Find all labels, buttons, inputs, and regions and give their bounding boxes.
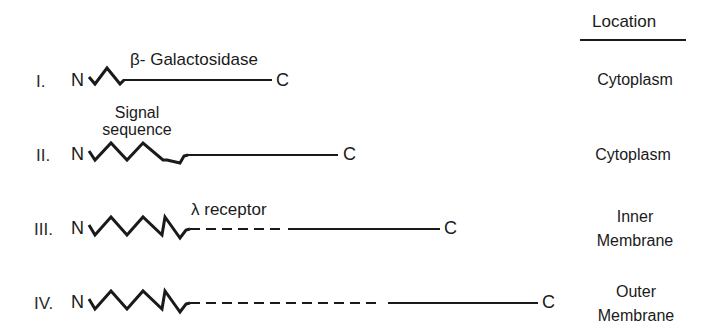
row-3-location-line-2: Membrane bbox=[585, 229, 685, 253]
row-2-numeral: II. bbox=[36, 146, 50, 166]
row-1-numeral: I. bbox=[36, 72, 45, 92]
row-2-c-terminus: C bbox=[343, 144, 356, 165]
row-2-annotation: Signal sequence bbox=[92, 104, 182, 138]
row-1-signal-zigzag bbox=[89, 68, 124, 84]
row-4-location-line-1: Outer bbox=[586, 280, 686, 304]
row-3-location-line-1: Inner bbox=[585, 205, 685, 229]
row-1-c-terminus: C bbox=[276, 70, 289, 91]
row-1-location-line-1: Cytoplasm bbox=[585, 68, 685, 92]
row-4-location-line-2: Membrane bbox=[586, 304, 686, 328]
row-2-annotation-line-2: sequence bbox=[92, 121, 182, 138]
row-1-n-terminus: N bbox=[71, 70, 84, 91]
row-2-annotation-line-1: Signal bbox=[92, 104, 182, 121]
row-1-annotation: β- Galactosidase bbox=[130, 50, 258, 70]
row-2-signal-zigzag bbox=[89, 143, 188, 163]
row-4-signal-zigzag bbox=[89, 291, 190, 312]
row-2-n-terminus: N bbox=[71, 144, 84, 165]
row-1-location: Cytoplasm bbox=[585, 68, 685, 92]
row-2-location-line-1: Cytoplasm bbox=[583, 143, 683, 167]
row-3-n-terminus: N bbox=[71, 218, 84, 239]
row-3-c-terminus: C bbox=[444, 218, 457, 239]
row-4-numeral: IV. bbox=[34, 294, 53, 314]
row-4-n-terminus: N bbox=[71, 292, 84, 313]
row-3-location: Inner Membrane bbox=[585, 205, 685, 253]
location-header: Location bbox=[592, 12, 656, 32]
row-4-location: Outer Membrane bbox=[586, 280, 686, 328]
row-3-signal-zigzag bbox=[89, 217, 190, 238]
row-4-c-terminus: C bbox=[542, 292, 555, 313]
row-2-location: Cytoplasm bbox=[583, 143, 683, 167]
row-3-numeral: III. bbox=[34, 220, 53, 240]
row-3-annotation: λ receptor bbox=[191, 200, 267, 220]
